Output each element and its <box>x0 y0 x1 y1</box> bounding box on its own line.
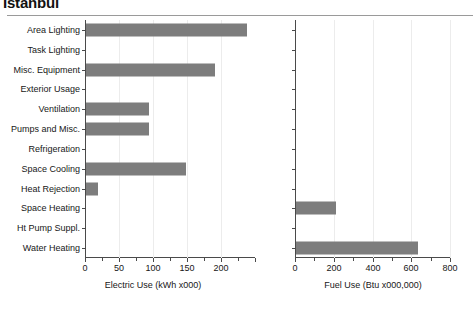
category-tick <box>82 70 85 71</box>
x-tick-label: 400 <box>365 263 380 273</box>
x-tick-minor <box>431 258 432 261</box>
category-label: Area Lighting <box>27 25 80 35</box>
category-tick <box>82 89 85 90</box>
x-tick-minor <box>136 258 137 261</box>
category-tick <box>292 169 295 170</box>
category-tick <box>82 169 85 170</box>
electric-y-axis <box>85 20 86 258</box>
x-tick-label: 800 <box>442 263 457 273</box>
bar <box>296 242 418 255</box>
x-tick-minor <box>314 258 315 261</box>
category-axis-labels: Area LightingTask LightingMisc. Equipmen… <box>0 20 85 268</box>
category-tick <box>292 208 295 209</box>
x-tick-label: 100 <box>145 263 160 273</box>
x-tick-major <box>119 258 120 262</box>
category-tick <box>292 228 295 229</box>
category-tick <box>292 70 295 71</box>
x-tick-major <box>85 258 86 262</box>
x-tick-major <box>373 258 374 262</box>
gridline <box>411 20 412 258</box>
category-label: Space Heating <box>21 203 80 213</box>
bar <box>86 183 98 196</box>
x-tick-major <box>295 258 296 262</box>
category-label: Misc. Equipment <box>13 65 80 75</box>
gridline <box>373 20 374 258</box>
gridline <box>187 20 188 258</box>
fuel-x-axis-band: 0200400600800Fuel Use (Btu x000,000) <box>295 258 450 308</box>
bar <box>86 64 215 77</box>
electric-x-axis-band: 050100150200Electric Use (kWh x000) <box>85 258 255 308</box>
x-tick-minor <box>353 258 354 261</box>
x-tick-label: 0 <box>82 263 87 273</box>
x-tick-major <box>334 258 335 262</box>
category-label: Water Heating <box>23 243 80 253</box>
category-label: Ht Pump Suppl. <box>17 223 80 233</box>
x-axis-title: Electric Use (kWh x000) <box>105 280 202 291</box>
gridline <box>450 20 451 258</box>
gridline <box>119 20 120 258</box>
category-tick <box>292 248 295 249</box>
x-tick-major <box>411 258 412 262</box>
gridline <box>334 20 335 258</box>
bar <box>86 123 149 136</box>
x-tick-label: 150 <box>179 263 194 273</box>
electric-use-panel: 050100150200Electric Use (kWh x000) <box>85 20 255 268</box>
category-tick <box>292 129 295 130</box>
category-tick <box>82 129 85 130</box>
category-tick <box>82 50 85 51</box>
category-tick <box>82 208 85 209</box>
x-tick-major <box>255 258 256 262</box>
category-tick <box>82 149 85 150</box>
category-label: Heat Rejection <box>21 184 80 194</box>
x-tick-major <box>450 258 451 262</box>
x-tick-major <box>221 258 222 262</box>
category-tick <box>292 109 295 110</box>
gridline <box>221 20 222 258</box>
category-tick <box>292 189 295 190</box>
category-tick <box>292 149 295 150</box>
category-tick <box>82 30 85 31</box>
category-label: Task Lighting <box>27 45 80 55</box>
title-divider <box>7 15 473 16</box>
page-title: Istanbul <box>3 0 59 11</box>
category-tick <box>82 228 85 229</box>
category-tick <box>82 248 85 249</box>
x-tick-label: 200 <box>213 263 228 273</box>
x-tick-minor <box>204 258 205 261</box>
x-tick-minor <box>102 258 103 261</box>
category-label: Refrigeration <box>28 144 80 154</box>
category-label: Exterior Usage <box>20 84 80 94</box>
x-tick-major <box>153 258 154 262</box>
category-tick <box>82 109 85 110</box>
x-axis-title: Fuel Use (Btu x000,000) <box>324 280 422 291</box>
gridline <box>153 20 154 258</box>
title-block: Istanbul <box>0 0 473 20</box>
bar <box>296 202 336 215</box>
category-tick <box>292 30 295 31</box>
category-tick <box>82 189 85 190</box>
bar <box>86 163 186 176</box>
category-label: Space Cooling <box>21 164 80 174</box>
electric-plot-area <box>85 20 255 258</box>
fuel-plot-area <box>295 20 450 258</box>
fuel-use-panel: 0200400600800Fuel Use (Btu x000,000) <box>295 20 450 268</box>
fuel-y-axis <box>295 20 296 258</box>
x-tick-minor <box>238 258 239 261</box>
bar <box>86 103 149 116</box>
category-tick <box>292 89 295 90</box>
x-tick-label: 0 <box>292 263 297 273</box>
x-tick-major <box>187 258 188 262</box>
x-tick-label: 600 <box>403 263 418 273</box>
x-tick-minor <box>392 258 393 261</box>
chart-figure: Area LightingTask LightingMisc. Equipmen… <box>0 20 473 311</box>
x-tick-label: 200 <box>326 263 341 273</box>
category-label: Ventilation <box>38 104 80 114</box>
category-label: Pumps and Misc. <box>11 124 80 134</box>
category-tick <box>292 50 295 51</box>
bar <box>86 24 247 37</box>
x-tick-minor <box>170 258 171 261</box>
x-tick-label: 50 <box>114 263 124 273</box>
